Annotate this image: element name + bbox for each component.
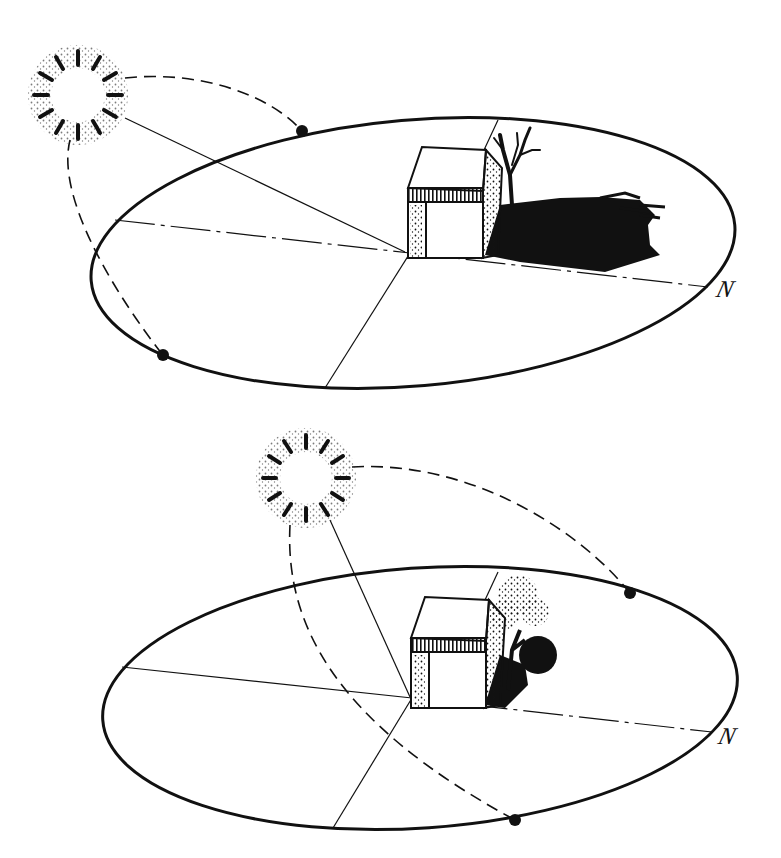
winter-diagram: [28, 45, 746, 414]
sun-icon: [28, 45, 128, 145]
sunrise-point: [157, 349, 169, 361]
sunrise-point: [509, 814, 521, 826]
summer-diagram: [94, 428, 747, 850]
sunset-point: [296, 125, 308, 137]
sun-icon: [256, 428, 356, 528]
long-shadow: [485, 197, 660, 272]
sun-ray: [330, 520, 410, 697]
sun-path: [68, 140, 162, 354]
house: [411, 597, 505, 708]
house: [408, 147, 502, 258]
sunset-point: [624, 587, 636, 599]
